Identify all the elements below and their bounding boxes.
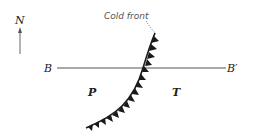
north-label: N — [14, 14, 25, 27]
cold-front-diagram: N Cold front B B′ P T — [0, 0, 254, 137]
leader-line — [146, 21, 155, 33]
north-arrow-icon — [18, 27, 22, 54]
section-end-label: B′ — [226, 62, 238, 75]
section-start-label: B — [43, 62, 52, 75]
cold-front-line — [86, 33, 155, 128]
region-t-label: T — [172, 86, 181, 99]
cold-front-label: Cold front — [104, 11, 149, 21]
region-p-label: P — [87, 86, 97, 99]
